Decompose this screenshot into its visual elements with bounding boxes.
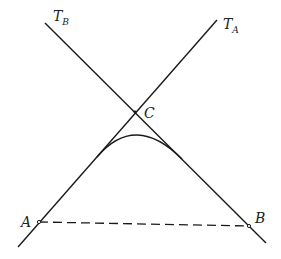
point-b-marker <box>247 224 250 227</box>
label-ta: TA <box>223 16 239 35</box>
curve-arc <box>97 135 182 159</box>
label-a: A <box>19 214 31 230</box>
label-c: C <box>144 105 155 121</box>
tangent-line-a <box>18 20 217 247</box>
tangent-line-b <box>45 23 266 243</box>
label-b: B <box>254 210 265 226</box>
diagram-canvas: TB TA C A B <box>0 0 281 259</box>
label-tb: TB <box>53 8 69 27</box>
chord-ab-dashed <box>39 222 249 226</box>
point-c-marker <box>134 111 137 114</box>
point-a-marker <box>37 220 40 223</box>
